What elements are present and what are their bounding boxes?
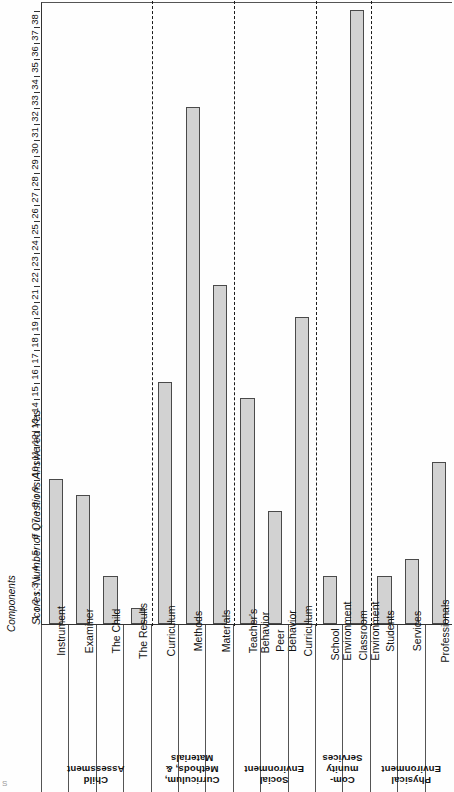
- y-tick-label-21: 21: [30, 285, 39, 303]
- y-tick-label-37: 37: [30, 27, 39, 45]
- category-label-line: Curriculum: [302, 606, 314, 657]
- y-tick-label-2: 2: [30, 592, 39, 610]
- group-label-line: Environment: [233, 764, 315, 775]
- group-label: PhysicalEnvironment: [370, 764, 452, 786]
- group-label: SocialEnvironment: [233, 764, 315, 786]
- group-separator: [152, 1, 153, 626]
- y-tick-label-11: 11: [30, 447, 39, 465]
- y-tick-mark-38: [34, 11, 40, 12]
- group-label-line: Materials: [151, 753, 233, 764]
- category-label: Curriculum: [302, 606, 314, 657]
- category-label: Professionals: [439, 599, 451, 662]
- group-label-line: Child: [41, 775, 151, 786]
- y-tick-label-17: 17: [30, 350, 39, 368]
- y-tick-label-29: 29: [30, 156, 39, 174]
- bar: [158, 382, 172, 624]
- y-tick-label-38: 38: [30, 10, 39, 28]
- y-tick-label-31: 31: [30, 124, 39, 142]
- y-tick-label-26: 26: [30, 204, 39, 222]
- bar: [350, 10, 364, 624]
- plot-area: [41, 2, 452, 625]
- bar: [213, 285, 227, 624]
- category-label-line: Peer: [274, 610, 286, 651]
- group-label-line: Curriculum,: [151, 775, 233, 786]
- group-label-line: Physical: [370, 775, 452, 786]
- group-label: Curriculum,Methods, &Materials: [151, 753, 233, 786]
- y-tick-label-33: 33: [30, 91, 39, 109]
- group-label: Com-munityServices: [315, 753, 370, 786]
- category-label: Materials: [220, 610, 232, 653]
- corner-mark: S: [2, 779, 7, 788]
- y-tick-label-16: 16: [30, 366, 39, 384]
- y-axis-ticks: 1234567891011121314151617181920212223242…: [0, 0, 42, 625]
- chart-page: Scores: Number of Questions Answered Yes…: [0, 0, 454, 792]
- category-label-line: The Results: [137, 603, 149, 659]
- y-tick-label-30: 30: [30, 140, 39, 158]
- y-tick-label-35: 35: [30, 59, 39, 77]
- group-label-line: Com-: [315, 775, 370, 786]
- y-tick-label-19: 19: [30, 317, 39, 335]
- y-tick-label-28: 28: [30, 172, 39, 190]
- category-label-line: Instrument: [55, 606, 67, 656]
- y-tick-label-18: 18: [30, 334, 39, 352]
- group-label-line: Methods, &: [151, 764, 233, 775]
- bar: [76, 495, 90, 624]
- y-tick-label-8: 8: [30, 495, 39, 513]
- group-label-line: Social: [233, 775, 315, 786]
- x-axis-title: Components: [6, 575, 17, 632]
- category-label-band: InstrumentExaminerThe ChildThe ResultsCh…: [41, 625, 452, 792]
- category-label-line: Teacher's: [247, 609, 259, 654]
- group-label-line: Assessment: [41, 764, 151, 775]
- y-tick-label-34: 34: [30, 75, 39, 93]
- category-label: The Results: [137, 603, 149, 659]
- bar: [240, 398, 254, 624]
- y-tick-label-12: 12: [30, 431, 39, 449]
- bar: [268, 511, 282, 624]
- y-tick-label-25: 25: [30, 221, 39, 239]
- y-tick-label-5: 5: [30, 544, 39, 562]
- y-tick-label-27: 27: [30, 188, 39, 206]
- category-label: The Child: [110, 609, 122, 654]
- y-tick-label-22: 22: [30, 269, 39, 287]
- y-tick-label-13: 13: [30, 414, 39, 432]
- category-label: Examiner: [83, 609, 95, 653]
- group-label: ChildAssessment: [41, 764, 151, 786]
- category-label-line: Professionals: [439, 599, 451, 662]
- group-label-line: Environment: [370, 764, 452, 775]
- y-tick-label-24: 24: [30, 237, 39, 255]
- y-tick-label-4: 4: [30, 560, 39, 578]
- group-separator: [234, 1, 235, 626]
- y-tick-label-3: 3: [30, 576, 39, 594]
- group-separator: [316, 1, 317, 626]
- group-separator: [371, 1, 372, 626]
- bar: [295, 317, 309, 624]
- y-tick-label-14: 14: [30, 398, 39, 416]
- y-tick-label-36: 36: [30, 43, 39, 61]
- category-label-line: Materials: [220, 610, 232, 653]
- y-tick-label-23: 23: [30, 253, 39, 271]
- category-label-line: The Child: [110, 609, 122, 654]
- category-label-line: Examiner: [83, 609, 95, 653]
- category-label-line: Methods: [192, 611, 204, 651]
- category-label-line: School: [329, 602, 341, 661]
- category-label: Services: [411, 611, 423, 651]
- bar: [186, 107, 200, 624]
- y-tick-label-1: 1: [30, 608, 39, 626]
- group-label-line: Services: [315, 753, 370, 764]
- y-tick-label-10: 10: [30, 463, 39, 481]
- category-label-line: Services: [411, 611, 423, 651]
- y-tick-label-9: 9: [30, 479, 39, 497]
- category-label: Instrument: [55, 606, 67, 656]
- group-label-line: munity: [315, 764, 370, 775]
- y-tick-label-7: 7: [30, 511, 39, 529]
- y-tick-label-32: 32: [30, 107, 39, 125]
- bar: [49, 479, 63, 624]
- category-label: Students: [384, 610, 396, 651]
- category-label-line: Classroom: [357, 602, 369, 661]
- category-label: Curriculum: [165, 606, 177, 657]
- category-label-line: Students: [384, 610, 396, 651]
- category-label-line: Curriculum: [165, 606, 177, 657]
- category-label: Methods: [192, 611, 204, 651]
- y-tick-label-20: 20: [30, 301, 39, 319]
- y-tick-label-6: 6: [30, 528, 39, 546]
